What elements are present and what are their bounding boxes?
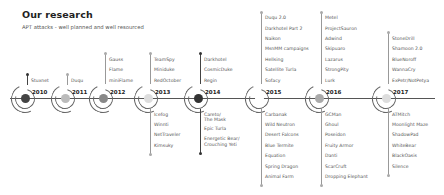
apt-label: Lazarus [325, 57, 343, 62]
apt-label: Flame [109, 67, 123, 72]
apt-label: Winnti [154, 122, 169, 127]
apt-label: StrongPity [325, 67, 349, 72]
connector-line [200, 109, 201, 154]
year-label: 2010 [32, 89, 47, 95]
connector-line [27, 75, 28, 85]
year-label: 2012 [110, 89, 125, 95]
connector-line [150, 54, 151, 85]
connector-endcap [387, 174, 390, 177]
connector-endcap [149, 153, 152, 156]
apt-label: Regin [204, 78, 217, 83]
apt-label: Carbanak [265, 112, 287, 117]
apt-label: Wild Neutron [265, 122, 295, 127]
connector-endcap [66, 73, 69, 76]
apt-label: Dropping Elephant [325, 174, 368, 179]
connector-line [261, 109, 262, 185]
year-dot [99, 94, 108, 103]
page-title: Our research [22, 9, 93, 20]
connector-endcap [320, 11, 323, 14]
connector-endcap [387, 31, 390, 34]
apt-label: Animal Farm [265, 174, 294, 179]
apt-label: Shamoon 2.0 [392, 46, 422, 51]
apt-label: Poseidon [325, 132, 346, 137]
year-dot [315, 94, 324, 103]
year-label: 2017 [393, 89, 408, 95]
apt-label: Danti [325, 153, 337, 158]
apt-label: RedOctober [154, 78, 181, 83]
apt-label: ScarCruft [325, 164, 347, 169]
connector-endcap [260, 11, 263, 14]
apt-label: Stuxnet [31, 78, 49, 83]
connector-endcap [320, 184, 323, 187]
apt-label: MsnMM campaigns [265, 46, 309, 51]
connector-endcap [26, 73, 29, 76]
apt-label: WannaCry [392, 67, 416, 72]
connector-endcap [149, 52, 152, 55]
apt-label: NetTraveler [154, 132, 180, 137]
apt-label: Duqu [71, 78, 83, 83]
year-dot [194, 94, 203, 103]
apt-label: ShadowPad [392, 132, 418, 137]
connector-line [150, 109, 151, 154]
apt-label: Metel [325, 15, 338, 20]
apt-label: Adwind [325, 36, 342, 41]
apt-label: Gauss [109, 57, 123, 62]
year-dot [61, 94, 70, 103]
apt-label: BlackOasis [392, 153, 417, 158]
connector-line [388, 109, 389, 175]
apt-label: ATMitch [392, 112, 410, 117]
apt-label: Sofacy [265, 78, 280, 83]
apt-label: Spring Dragon [265, 164, 298, 169]
apt-label: Desert Falcons [265, 132, 299, 137]
connector-line [200, 54, 201, 85]
apt-label: Ghoul [325, 122, 338, 127]
apt-label: Energetic Bear/Crouching Yeti [204, 136, 239, 146]
connector-line [105, 54, 106, 85]
apt-label: Fruity Armor [325, 143, 354, 148]
year-label: 2011 [72, 89, 87, 95]
year-dot [21, 94, 30, 103]
apt-label: CosmicDuke [204, 67, 232, 72]
apt-label: Hellsing [265, 57, 283, 62]
connector-endcap [199, 152, 202, 155]
apt-label: Silence [392, 164, 409, 169]
year-label: 2016 [326, 89, 341, 95]
year-dot [382, 94, 391, 103]
apt-label: TeamSpy [154, 57, 175, 62]
connector-endcap [260, 184, 263, 187]
apt-label: Lurk [325, 78, 335, 83]
page-subtitle: APT attacks - well planned and well reso… [22, 24, 144, 30]
apt-label: Moonlight Maze [392, 122, 428, 127]
apt-label: Blue Termite [265, 143, 294, 148]
apt-label: StoneDrill [392, 36, 415, 41]
connector-line [67, 75, 68, 85]
connector-endcap [199, 52, 202, 55]
apt-label: Duqu 2.0 [265, 15, 286, 20]
apt-label: Darkhotel Part 2 [265, 26, 302, 31]
apt-label: Careto/The Mask [204, 112, 226, 122]
apt-label: Equation [265, 153, 285, 158]
year-label: 2015 [266, 89, 281, 95]
apt-label: Satellite Turla [265, 67, 296, 72]
connector-line [261, 12, 262, 84]
apt-label: ProjectSauron [325, 26, 357, 31]
apt-label: WhiteBear [392, 143, 416, 148]
year-label: 2014 [205, 89, 220, 95]
year-label: 2013 [155, 89, 170, 95]
apt-label: Kimsuky [154, 143, 173, 148]
apt-label: ExPetr/NotPetya [392, 78, 429, 83]
apt-label: Icefog [154, 112, 168, 117]
apt-label: Naikon [265, 36, 281, 41]
connector-line [321, 109, 322, 185]
apt-label: BlueNoroff [392, 57, 416, 62]
connector-line [388, 33, 389, 85]
year-dot [144, 94, 153, 103]
apt-label: miniFlame [109, 78, 133, 83]
year-dot [255, 94, 264, 103]
apt-label: Epic Turla [204, 126, 226, 131]
apt-label: Darkhotel [204, 57, 227, 62]
apt-label: Skipuaro [325, 46, 345, 51]
apt-label: Miniduke [154, 67, 175, 72]
connector-endcap [104, 52, 107, 55]
connector-line [321, 12, 322, 84]
